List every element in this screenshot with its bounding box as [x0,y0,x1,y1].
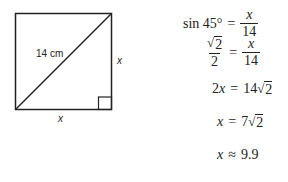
equation-1: sin 45° = x 14 [183,8,258,39]
eq1-lhs: sin 45° [183,16,222,32]
eq2-lhs-fraction: √2 2 [205,36,224,69]
equation-3: 2x = 14 √2 [212,81,272,97]
diagonal-label: 14 cm [36,48,63,59]
equation-4: x = 7 √2 [217,114,263,130]
equation-5: x ≈ 9.9 [217,147,258,163]
eq2-op: = [229,45,237,61]
right-side-label: x [117,55,122,66]
eq2-rhs-fraction: x 14 [242,37,260,68]
eq1-fraction: x 14 [240,8,258,39]
bottom-side-label: x [58,113,63,124]
right-angle-marker [99,97,112,110]
eq1-op: = [227,16,235,32]
diagonal-line [16,14,112,110]
equation-2: √2 2 = x 14 [205,36,260,69]
